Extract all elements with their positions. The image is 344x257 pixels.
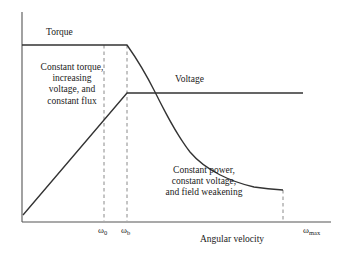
annotation-line: constant flux	[26, 96, 118, 107]
annotation-line: Constant power,	[143, 165, 265, 176]
constant-power-region-annotation: Constant power, constant voltage, and fi…	[143, 165, 265, 199]
annotation-line: constant voltage,	[143, 176, 265, 187]
annotation-line: increasing	[26, 73, 118, 84]
x-tick-label-omega-b: ωb	[121, 225, 130, 236]
omega-subscript: 0	[104, 229, 107, 236]
omega-subscript: b	[127, 229, 130, 236]
x-tick-label-omega-0: ω0	[98, 225, 107, 236]
annotation-line: and field weakening	[143, 187, 265, 198]
torque-curve-label: Torque	[46, 27, 73, 38]
x-axis-title: Angular velocity	[200, 234, 264, 245]
constant-torque-region-annotation: Constant torque, increasing voltage, and…	[26, 62, 118, 107]
omega-subscript: max	[309, 229, 320, 236]
annotation-line: voltage, and	[26, 84, 118, 95]
x-tick-label-omega-max: ωmax	[303, 225, 320, 236]
annotation-line: Constant torque,	[26, 62, 118, 73]
voltage-curve-label: Voltage	[175, 74, 204, 85]
motor-characteristic-figure: Torque Voltage Constant torque, increasi…	[0, 0, 344, 257]
plot-canvas	[0, 0, 344, 257]
